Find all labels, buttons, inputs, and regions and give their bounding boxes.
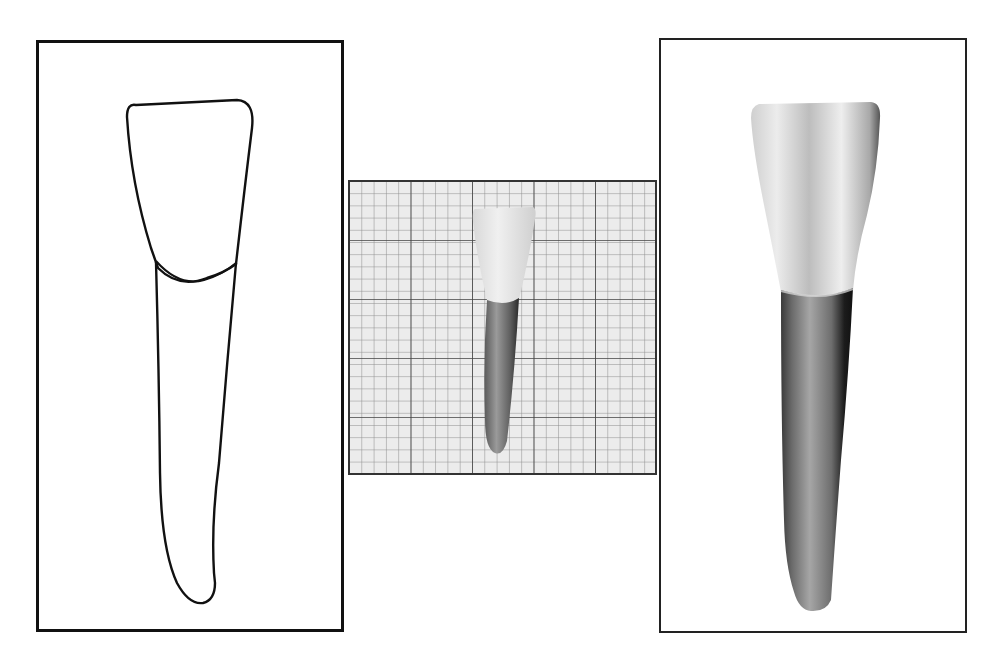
- enlarged-photo-panel: [659, 38, 967, 633]
- tooth-photo-enlarged: [661, 40, 965, 631]
- tooth-outline-drawing: [39, 43, 341, 629]
- graph-paper-photo-panel: [347, 179, 658, 476]
- graph-paper: [347, 179, 658, 476]
- outline-drawing-panel: [36, 40, 344, 632]
